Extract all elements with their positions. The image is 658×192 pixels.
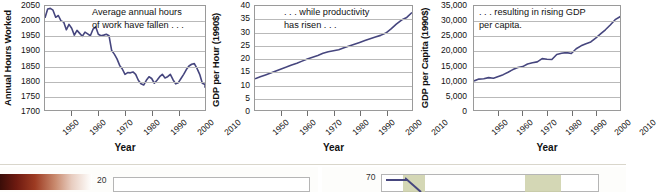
x-tick-label: 1970 <box>539 118 559 137</box>
x-tick-label: 1990 <box>589 118 609 137</box>
y-tick-label: 35 <box>241 14 250 23</box>
chart-panel-gdp-per-capita: GDP per Capita (1990$) 35,00030,00025,00… <box>417 0 626 158</box>
x-tick-mark <box>387 111 388 116</box>
annotation-chart-2: . . . while productivityhas risen . . . <box>284 6 369 31</box>
gridline <box>255 46 412 47</box>
gridline <box>255 86 412 87</box>
x-tick-label: 1960 <box>88 118 108 137</box>
cropped-next-figure-strip: 20 70 <box>0 158 626 192</box>
y-axis-tick-labels-chart-3: 35,00030,00025,00020,00015,00010,0005,00… <box>419 5 469 111</box>
x-tick-label: 1950 <box>271 118 291 137</box>
x-tick-label: 1980 <box>142 118 162 137</box>
strip-left-plot-box <box>113 177 310 192</box>
annotation-line: . . . resulting in rising GDP <box>479 6 586 19</box>
dark-red-to-white-gradient <box>0 174 92 190</box>
x-tick-mark <box>98 111 99 116</box>
annotation-line: per capita. <box>479 19 586 32</box>
x-tick-label: 1960 <box>515 118 535 137</box>
y-axis-tick-labels-chart-2: 4035302520151050 <box>214 5 252 111</box>
annotation-line: Average annual hours <box>92 6 184 19</box>
gridline <box>474 67 620 68</box>
y-tick-label: 0 <box>462 107 467 116</box>
x-tick-mark <box>522 111 523 116</box>
gridline <box>45 51 205 52</box>
y-tick-label: 20 <box>241 54 250 63</box>
x-tick-mark <box>71 111 72 116</box>
y-tick-label: 2000 <box>21 16 40 25</box>
x-tick-label: 1970 <box>115 118 135 137</box>
y-tick-label: 35,000 <box>441 1 467 10</box>
x-tick-label: 1950 <box>490 118 510 137</box>
annotation-chart-1: Average annual hoursof work have fallen … <box>92 6 184 31</box>
x-tick-label: 1970 <box>324 118 344 137</box>
x-tick-label: 1950 <box>61 118 81 137</box>
gridline <box>255 99 412 100</box>
gridline <box>255 72 412 73</box>
x-tick-mark <box>596 111 597 116</box>
x-tick-mark <box>152 111 153 116</box>
y-tick-label: 1700 <box>21 107 40 116</box>
y-tick-label: 2050 <box>21 1 40 10</box>
x-tick-mark <box>547 111 548 116</box>
gridline <box>474 82 620 83</box>
x-tick-mark <box>307 111 308 116</box>
x-tick-label: 2010 <box>638 118 658 137</box>
x-tick-mark <box>498 111 499 116</box>
annotation-line: of work have fallen . . . <box>92 19 184 32</box>
three-panel-figure-row: Annual Hours Worked 20502000195019001850… <box>0 0 626 158</box>
gridline <box>474 97 620 98</box>
annotation-chart-3: . . . resulting in rising GDPper capita. <box>479 6 586 31</box>
x-axis-tick-marks-chart-2 <box>254 111 413 117</box>
y-tick-label: 10,000 <box>441 76 467 85</box>
gridline <box>474 36 620 37</box>
annotation-line: . . . while productivity <box>284 6 369 19</box>
strip-series-diagonal <box>405 176 435 192</box>
x-tick-label: 1990 <box>377 118 397 137</box>
x-tick-label: 2000 <box>613 118 633 137</box>
strip-divider <box>0 164 626 165</box>
y-tick-label: 15,000 <box>441 61 467 70</box>
strip-right-axis-value: 70 <box>366 172 375 182</box>
gridline <box>474 51 620 52</box>
y-tick-label: 5,000 <box>446 92 467 101</box>
y-axis-tick-labels-chart-1: 20502000195019001850180017501700 <box>2 5 42 111</box>
y-tick-label: 1900 <box>21 46 40 55</box>
gridline <box>255 59 412 60</box>
gridline <box>45 82 205 83</box>
gridline <box>45 97 205 98</box>
y-tick-label: 25 <box>241 41 250 50</box>
y-tick-label: 15 <box>241 67 250 76</box>
strip-left-axis-value: 20 <box>97 175 106 185</box>
y-tick-label: 30 <box>241 27 250 36</box>
chart-panel-gdp-per-hour: GDP per Hour (1990$) 4035302520151050 . … <box>208 0 417 158</box>
x-tick-label: 1990 <box>169 118 189 137</box>
y-tick-label: 30,000 <box>441 16 467 25</box>
chart-panel-annual-hours-worked: Annual Hours Worked 20502000195019001850… <box>0 0 208 158</box>
y-tick-label: 10 <box>241 80 250 89</box>
x-tick-label: 1980 <box>350 118 370 137</box>
x-tick-mark <box>281 111 282 116</box>
x-axis-title-chart-1: Year <box>44 142 206 153</box>
y-tick-label: 0 <box>245 107 250 116</box>
y-tick-label: 40 <box>241 1 250 10</box>
y-tick-label: 5 <box>245 94 250 103</box>
y-tick-label: 1950 <box>21 31 40 40</box>
x-axis-title-chart-2: Year <box>254 142 413 153</box>
x-axis-title-chart-3: Year <box>473 142 621 153</box>
strip-band-2 <box>525 175 561 192</box>
x-tick-mark <box>334 111 335 116</box>
x-tick-label: 1960 <box>297 118 317 137</box>
annotation-line: has risen . . . <box>284 19 369 32</box>
x-tick-mark <box>360 111 361 116</box>
x-tick-mark <box>179 111 180 116</box>
x-tick-label: 1980 <box>564 118 584 137</box>
y-tick-label: 25,000 <box>441 31 467 40</box>
gridline <box>45 36 205 37</box>
gridline <box>45 67 205 68</box>
gridline <box>255 33 412 34</box>
y-tick-label: 1800 <box>21 76 40 85</box>
y-tick-label: 20,000 <box>441 46 467 55</box>
y-tick-label: 1750 <box>21 92 40 101</box>
x-tick-mark <box>125 111 126 116</box>
y-tick-label: 1850 <box>21 61 40 70</box>
